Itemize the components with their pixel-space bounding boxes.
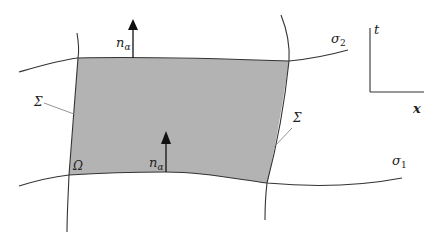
label-sigma-boundary-right: Σ — [292, 111, 302, 125]
label-omega: Ω — [72, 159, 83, 173]
label-axis-x: x — [412, 101, 421, 116]
region-omega — [69, 58, 289, 183]
label-sigma-boundary-left: Σ — [33, 95, 43, 109]
label-axis-t: t — [374, 22, 380, 37]
label-sigma2: σ2 — [331, 31, 346, 48]
leader-left — [44, 103, 74, 114]
normal-arrow-top-icon — [128, 19, 138, 58]
label-sigma1: σ1 — [392, 153, 407, 170]
label-normal-top: nα — [116, 35, 130, 52]
spacetime-region-diagram: nα nα σ2 σ1 Σ Σ Ω t x — [0, 0, 441, 244]
axes-icon — [370, 28, 424, 92]
